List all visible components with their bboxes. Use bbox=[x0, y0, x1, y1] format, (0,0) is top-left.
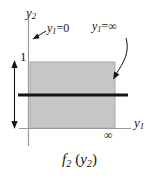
height-marker-arrow bbox=[11, 60, 17, 129]
y2-axis-label: y2 bbox=[26, 6, 36, 19]
figure-caption: f2 (y2) bbox=[0, 152, 159, 167]
right-edge-annotation-label: y1=∞ bbox=[92, 20, 117, 32]
right-edge-leader-arrow bbox=[113, 38, 127, 80]
height-marker-label: 1 bbox=[20, 50, 27, 63]
left-edge-annotation-label: y1=0 bbox=[47, 22, 69, 34]
left-edge-leader-arrow bbox=[33, 31, 47, 39]
y1-axis-label: y1 bbox=[134, 116, 144, 129]
y1-axis-infinity-marker: ∞ bbox=[104, 129, 113, 141]
figure-canvas: y2 y1=0 y1=∞ 1 ∞ y1 f2 (y2) bbox=[0, 0, 159, 181]
